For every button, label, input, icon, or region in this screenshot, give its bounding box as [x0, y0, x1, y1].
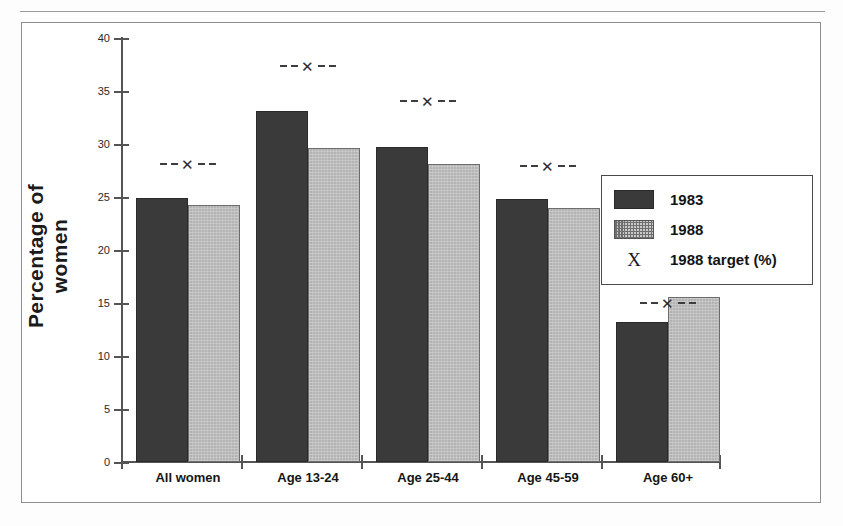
top-rule-divider [20, 11, 825, 12]
legend-label-target: 1988 target (%) [670, 251, 777, 268]
chart-legend: 1983 1988 X 1988 target (%) [601, 175, 813, 285]
legend-item-1988: 1988 [614, 214, 802, 244]
legend-label-1988: 1988 [670, 221, 703, 238]
legend-item-target: X 1988 target (%) [614, 244, 802, 274]
legend-label-1983: 1983 [670, 191, 703, 208]
legend-swatch-1988-icon [614, 220, 654, 239]
legend-x-marker-icon: X [614, 250, 654, 269]
legend-swatch-1983-icon [614, 190, 654, 209]
legend-item-1983: 1983 [614, 184, 802, 214]
figure-page: 0 5 10 15 20 25 30 35 40 Percentage of w… [0, 0, 843, 526]
